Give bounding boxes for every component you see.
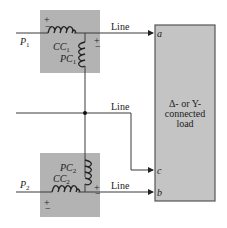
p2-label: P2 <box>19 179 30 192</box>
terminal-c-label: c <box>157 165 162 176</box>
cc1-minus-sign: − <box>45 21 51 32</box>
p1-label: P1 <box>19 36 30 49</box>
line-label-middle: Line <box>111 101 130 112</box>
two-wattmeter-diagram: P1 P2 CC1 PC1 PC2 CC2 + − + − + − + − Li… <box>0 0 227 228</box>
terminal-b-label: b <box>157 187 162 198</box>
line-c-route <box>131 113 153 170</box>
line-label-top: Line <box>111 21 130 32</box>
load-text-line3: load <box>176 118 193 129</box>
cc2-minus-sign: − <box>45 203 51 214</box>
terminal-a-label: a <box>157 28 162 39</box>
pc2-minus-sign: − <box>95 188 101 199</box>
line-label-bottom: Line <box>111 180 130 191</box>
pc1-minus-sign: − <box>95 41 101 52</box>
junction-dot <box>83 111 87 115</box>
